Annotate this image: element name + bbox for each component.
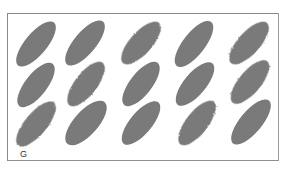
ellipse-shape (115, 16, 167, 71)
ellipse-shape (115, 95, 167, 151)
ellipse-shape (10, 15, 63, 72)
ellipse-shape (59, 14, 112, 71)
ellipse-shape (10, 95, 63, 152)
ellipse-shape (58, 94, 113, 152)
figure-label: G (20, 149, 27, 159)
ellipse-grid (0, 0, 288, 170)
